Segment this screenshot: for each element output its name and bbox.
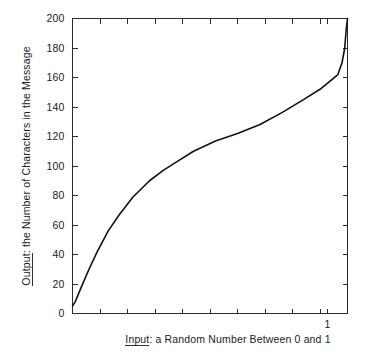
x-axis-tick-labels: 1 (324, 318, 330, 330)
line-chart: 020406080100120140160180200 1 Input: a R… (0, 0, 370, 359)
y-axis-title-group: Output: the Number of Characters in the … (20, 46, 33, 285)
y-tick-label-60: 60 (52, 219, 64, 231)
y-tick-label-180: 180 (46, 42, 64, 54)
chart-page: 020406080100120140160180200 1 Input: a R… (0, 0, 370, 359)
y-tick-label-160: 160 (46, 71, 64, 83)
y-tick-label-100: 100 (46, 160, 64, 172)
y-tick-label-20: 20 (52, 278, 64, 290)
x-axis-title: Input: a Random Number Between 0 and 1 (125, 333, 330, 345)
x-axis-title-group: Input: a Random Number Between 0 and 1 (125, 333, 330, 346)
y-axis-title: Output: the Number of Characters in the … (20, 46, 32, 285)
y-tick-label-80: 80 (52, 189, 64, 201)
y-tick-label-120: 120 (46, 130, 64, 142)
y-tick-label-200: 200 (46, 12, 64, 24)
chart-background (0, 0, 370, 359)
y-tick-label-40: 40 (52, 248, 64, 260)
x-tick-label-1: 1 (324, 318, 330, 330)
y-tick-label-140: 140 (46, 101, 64, 113)
y-tick-label-0: 0 (58, 307, 64, 319)
